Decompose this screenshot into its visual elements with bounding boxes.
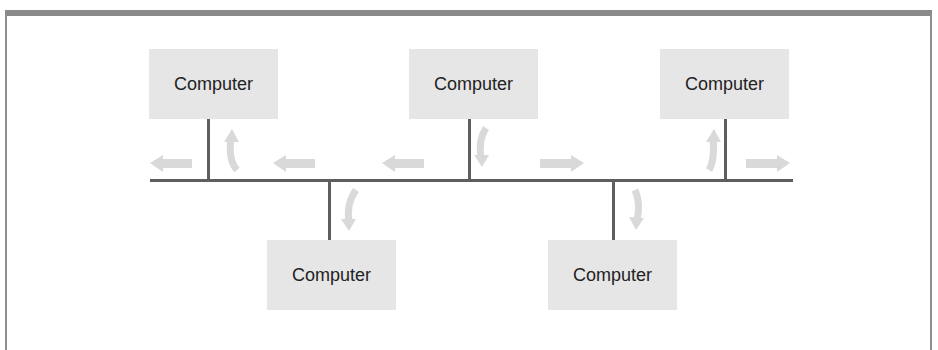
left-arrow-icon	[382, 155, 424, 172]
curved-up-arrow-icon	[709, 138, 714, 170]
right-arrow-icon	[746, 155, 790, 172]
left-arrow-icon	[150, 155, 192, 172]
left-arrow-icon	[273, 155, 315, 172]
curved-up-arrow-icon	[230, 138, 237, 170]
curved-down-arrow-icon	[635, 190, 639, 220]
right-arrow-icon	[540, 155, 584, 172]
curved-down-arrow-icon	[480, 128, 486, 158]
curved-down-arrow-icon	[348, 190, 356, 222]
